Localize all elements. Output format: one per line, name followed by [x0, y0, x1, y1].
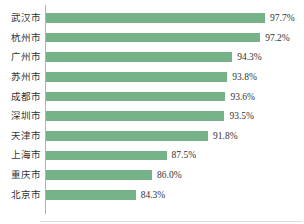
category-label: 广州市 — [0, 50, 41, 64]
bar — [46, 131, 208, 141]
category-label: 重庆市 — [0, 168, 41, 182]
value-label: 91.8% — [213, 129, 238, 143]
horizontal-bar-chart: 武汉市97.7%杭州市97.2%广州市94.3%苏州市93.8%成都市93.6%… — [0, 0, 304, 224]
category-label: 杭州市 — [0, 31, 41, 45]
bar — [46, 190, 136, 200]
bar — [46, 92, 225, 102]
category-label: 天津市 — [0, 129, 41, 143]
value-label: 97.2% — [265, 31, 290, 45]
bar — [46, 33, 260, 43]
value-label: 93.5% — [229, 109, 254, 123]
category-label: 武汉市 — [0, 11, 41, 25]
category-label: 苏州市 — [0, 70, 41, 84]
value-label: 93.6% — [230, 90, 255, 104]
value-label: 93.8% — [232, 70, 257, 84]
bar — [46, 13, 265, 23]
value-label: 87.5% — [172, 148, 197, 162]
bar — [46, 72, 227, 82]
value-label: 94.3% — [237, 50, 262, 64]
x-axis-baseline — [40, 221, 302, 222]
category-label: 上海市 — [0, 148, 41, 162]
category-label: 成都市 — [0, 90, 41, 104]
value-label: 97.7% — [270, 11, 295, 25]
value-label: 84.3% — [141, 188, 166, 202]
value-label: 86.0% — [157, 168, 182, 182]
bar — [46, 111, 224, 121]
bar — [46, 151, 167, 161]
bar — [46, 170, 152, 180]
bar — [46, 52, 232, 62]
category-label: 北京市 — [0, 188, 41, 202]
category-label: 深圳市 — [0, 109, 41, 123]
